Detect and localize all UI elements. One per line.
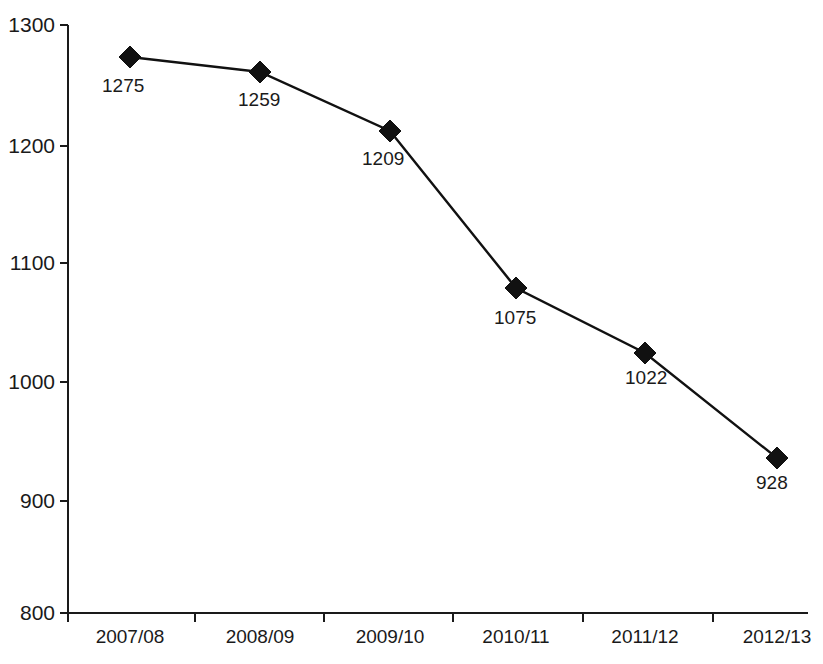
data-point-label: 1022: [625, 367, 667, 388]
chart-canvas: 8009001000110012001300 2007/082008/09200…: [0, 0, 823, 664]
y-axis-tick-label: 1100: [10, 251, 55, 274]
data-point-label: 928: [756, 472, 788, 493]
data-point-marker: [119, 46, 141, 68]
data-point-label: 1209: [362, 148, 404, 169]
x-axis-tick-label: 2007/08: [96, 626, 165, 647]
y-axis-tick-label: 1300: [8, 13, 55, 36]
y-axis-tick-label: 1200: [8, 134, 55, 157]
data-point-marker: [634, 342, 656, 364]
data-point-label: 1275: [102, 75, 144, 96]
data-point-markers: [119, 46, 788, 469]
series-polyline: [130, 57, 777, 458]
data-point-label: 1259: [238, 89, 280, 110]
x-axis-tick-label: 2008/09: [226, 626, 295, 647]
y-axis-tick-labels: 8009001000110012001300: [8, 13, 55, 624]
x-axis-tick-label: 2010/11: [482, 626, 549, 647]
data-point-marker: [249, 61, 271, 83]
y-axis-tick-label: 1000: [8, 370, 55, 393]
x-axis-tick-label: 2009/10: [356, 626, 425, 647]
data-series-line: [130, 57, 777, 458]
x-axis-tick-label: 2012/13: [743, 626, 812, 647]
line-chart-figure: 8009001000110012001300 2007/082008/09200…: [0, 0, 823, 664]
data-point-marker: [766, 447, 788, 469]
data-point-label: 1075: [494, 307, 536, 328]
x-axis-ticks: [68, 613, 713, 622]
y-axis-tick-label: 800: [20, 601, 55, 624]
x-axis-tick-label: 2011/12: [611, 626, 678, 647]
data-point-labels: 12751259120910751022928: [102, 75, 788, 493]
y-axis-ticks: [60, 25, 68, 613]
x-axis-tick-labels: 2007/082008/092009/102010/112011/122012/…: [96, 626, 812, 647]
y-axis-tick-label: 900: [20, 489, 55, 512]
